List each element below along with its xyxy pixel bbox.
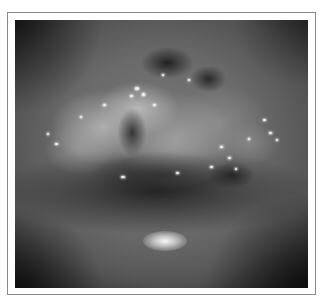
glint bbox=[210, 166, 213, 168]
glint bbox=[130, 95, 133, 97]
glint bbox=[135, 87, 139, 90]
clinical-photograph bbox=[15, 20, 308, 288]
glint bbox=[269, 132, 272, 134]
glint bbox=[47, 133, 49, 135]
glint bbox=[220, 146, 223, 148]
glint bbox=[142, 93, 145, 96]
glint bbox=[176, 172, 179, 174]
glint bbox=[276, 139, 278, 141]
glint bbox=[55, 143, 58, 145]
specular-reflection bbox=[143, 231, 187, 251]
glint bbox=[162, 74, 164, 76]
glint bbox=[121, 176, 125, 178]
glint bbox=[188, 79, 190, 81]
glint bbox=[263, 119, 266, 121]
glint bbox=[80, 116, 82, 118]
glint bbox=[248, 138, 250, 140]
glint bbox=[235, 168, 237, 170]
glint bbox=[153, 104, 156, 106]
glint bbox=[103, 104, 106, 106]
glint bbox=[228, 157, 231, 159]
